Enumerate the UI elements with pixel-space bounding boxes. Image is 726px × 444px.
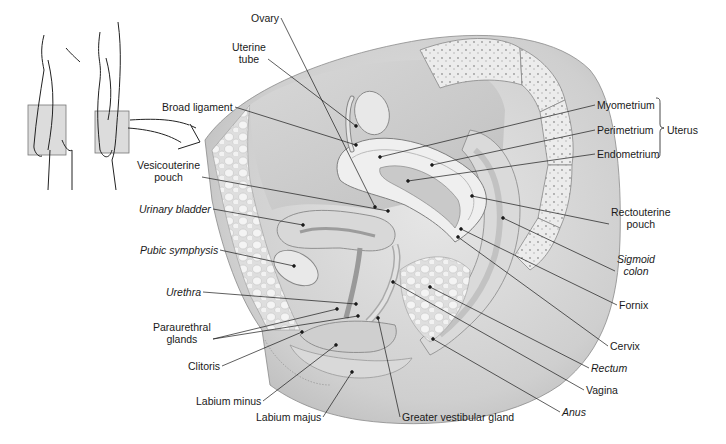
label-labium-minus: Labium minus [196,395,261,407]
leader-dot-urinary-bladder [302,224,305,227]
label-greater-vestibular-gland: Greater vestibular gland [402,411,514,423]
leader-dot-clitoris [301,331,304,334]
anatomy-diagram: OvaryUterinetubeBroad ligamentMyometrium… [0,0,726,444]
leader-dot-endometrium [407,180,410,183]
label-cervix: Cervix [610,340,640,352]
leader-dot-urethra [355,303,358,306]
leader-dot-rectouterine-pouch [471,195,474,198]
leader-dot-vagina [392,281,395,284]
label-fornix: Fornix [619,299,648,311]
label-clitoris: Clitoris [188,360,220,372]
leader-dot-rectum [429,286,432,289]
label-myometrium: Myometrium [597,99,655,111]
label-endometrium: Endometrium [597,148,659,160]
label-perimetrium: Perimetrium [597,124,654,136]
label-uterus: Uterus [667,124,698,136]
leader-dot-paraurethral-glands [336,308,339,311]
label-rectum: Rectum [591,362,627,374]
label-broad-ligament: Broad ligament [162,101,233,113]
leader-dot-broad-ligament [355,144,358,147]
leader-dot-labium-minus [335,344,338,347]
label-urethra: Urethra [166,286,201,298]
label-pubic-symphysis: Pubic symphysis [140,244,218,256]
leader-dot-cervix [457,236,460,239]
label-rectouterine-pouch: Rectouterinepouch [611,206,671,230]
leader-dot-perimetrium [431,164,434,167]
label-vagina: Vagina [586,384,618,396]
leader-dot-vesicouterine-pouch [387,210,390,213]
label-labium-majus: Labium majus [256,411,321,423]
label-uterine-tube: Uterinetube [232,41,266,65]
leader-dot-pubic-symphysis [293,265,296,268]
label-anus: Anus [562,406,586,418]
leader-dot-uterine-tube [355,125,358,128]
leader-dot-labium-majus [351,371,354,374]
leader-dot-greater-vestibular-gland [377,317,380,320]
leader-dot-paraurethral-glands [357,315,360,318]
label-sigmoid-colon: Sigmoidcolon [617,253,655,277]
label-ovary: Ovary [251,12,279,24]
leader-dot-ovary [374,206,377,209]
label-urinary-bladder: Urinary bladder [139,203,211,215]
leader-dot-anus [432,338,435,341]
label-paraurethral-glands: Paraurethralglands [153,321,211,345]
label-vesicouterine-pouch: Vesicouterinepouch [137,159,200,183]
pelvis-section [205,35,620,423]
leader-dot-sigmoid-colon [502,217,505,220]
leader-dot-fornix [460,228,463,231]
leader-dot-myometrium [379,156,382,159]
